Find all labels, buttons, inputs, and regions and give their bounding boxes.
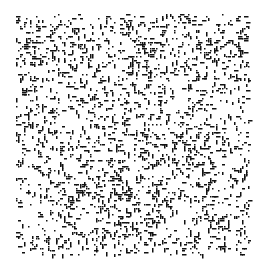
- speck: [50, 148, 52, 150]
- speck: [90, 156, 92, 158]
- speck: [104, 100, 109, 102]
- speck: [200, 124, 202, 126]
- speck: [44, 234, 46, 236]
- speck: [230, 186, 232, 188]
- speck: [114, 84, 117, 86]
- speck: [80, 78, 82, 83]
- speck: [90, 88, 92, 91]
- speck: [58, 114, 60, 116]
- speck: [52, 56, 54, 59]
- speck: [240, 50, 242, 55]
- speck: [72, 50, 74, 55]
- speck: [40, 152, 42, 154]
- speck: [98, 82, 103, 84]
- speck: [40, 42, 42, 44]
- speck: [126, 182, 128, 187]
- speck: [170, 72, 175, 74]
- speck: [146, 108, 148, 110]
- speck: [192, 170, 194, 172]
- speck: [44, 40, 46, 42]
- speck: [150, 114, 155, 116]
- speck: [200, 164, 205, 166]
- speck: [182, 250, 185, 252]
- speck: [222, 228, 224, 231]
- speck: [198, 134, 200, 136]
- speck: [146, 68, 148, 70]
- speck: [116, 148, 118, 153]
- speck: [108, 134, 111, 136]
- speck: [134, 16, 136, 18]
- speck: [134, 92, 137, 94]
- speck: [160, 76, 162, 78]
- speck: [186, 124, 189, 126]
- speck: [158, 64, 160, 66]
- speck: [236, 116, 241, 118]
- speck: [42, 248, 44, 250]
- speck: [164, 238, 166, 240]
- speck: [170, 254, 172, 256]
- speck: [152, 198, 155, 200]
- speck: [120, 42, 122, 45]
- speck: [188, 228, 190, 230]
- speck: [160, 72, 165, 74]
- speck: [152, 196, 157, 198]
- speck: [206, 210, 208, 215]
- speck: [70, 46, 72, 48]
- speck: [144, 218, 146, 221]
- speck: [238, 100, 240, 103]
- speck: [186, 158, 188, 163]
- speck: [96, 98, 99, 100]
- speck: [222, 150, 227, 152]
- speck: [64, 24, 66, 26]
- speck: [120, 144, 122, 146]
- speck: [248, 160, 250, 162]
- speck: [166, 114, 171, 116]
- speck: [174, 176, 176, 179]
- speck: [152, 218, 154, 220]
- speck: [202, 254, 204, 259]
- speck: [16, 58, 19, 60]
- speck: [54, 56, 56, 61]
- speck: [216, 238, 221, 240]
- speck: [180, 66, 185, 68]
- speck: [56, 92, 58, 94]
- speck: [98, 142, 100, 144]
- speck: [36, 108, 38, 110]
- speck: [236, 74, 238, 79]
- speck: [90, 204, 93, 206]
- speck: [80, 232, 83, 234]
- speck: [30, 100, 32, 102]
- speck: [132, 26, 134, 31]
- speck: [148, 118, 150, 120]
- speck: [22, 252, 25, 254]
- speck: [52, 204, 54, 206]
- speck: [204, 218, 209, 220]
- speck: [24, 58, 26, 60]
- speck: [108, 160, 110, 162]
- speck: [138, 170, 140, 172]
- speck: [222, 164, 225, 166]
- speck: [46, 160, 48, 163]
- speck: [194, 104, 196, 106]
- speck: [154, 164, 156, 167]
- speck: [78, 254, 80, 256]
- speck: [200, 104, 203, 106]
- speck: [198, 100, 203, 102]
- speck: [198, 24, 203, 26]
- speck: [174, 192, 176, 194]
- speck: [122, 104, 124, 106]
- speck: [108, 164, 110, 166]
- speck: [38, 216, 43, 218]
- speck: [186, 128, 188, 130]
- speck: [64, 242, 67, 244]
- speck: [36, 16, 38, 18]
- speck: [98, 38, 100, 40]
- speck: [210, 236, 212, 238]
- speck: [162, 32, 164, 34]
- speck: [246, 208, 249, 210]
- speck: [122, 182, 124, 184]
- speck: [182, 88, 187, 90]
- speck: [72, 196, 74, 201]
- speck: [66, 206, 68, 209]
- speck: [136, 194, 138, 196]
